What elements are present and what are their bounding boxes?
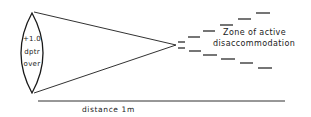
distance-label: distance 1m [82, 106, 135, 114]
lower-ray-line [34, 45, 176, 93]
lower-zone-dashes [178, 48, 272, 68]
upper-ray-line [34, 12, 176, 45]
diagram-canvas: +1.0 dptr over Zone of active disaccommo… [0, 0, 311, 117]
lens-over-label: over [17, 61, 47, 68]
diagram-graphics [0, 0, 311, 117]
zone-title-label: Zone of active [223, 29, 286, 37]
lens-unit-label: dptr [17, 49, 47, 56]
lens-power-label: +1.0 [17, 36, 47, 43]
zone-subtitle-label: disaccommodation [213, 40, 295, 48]
